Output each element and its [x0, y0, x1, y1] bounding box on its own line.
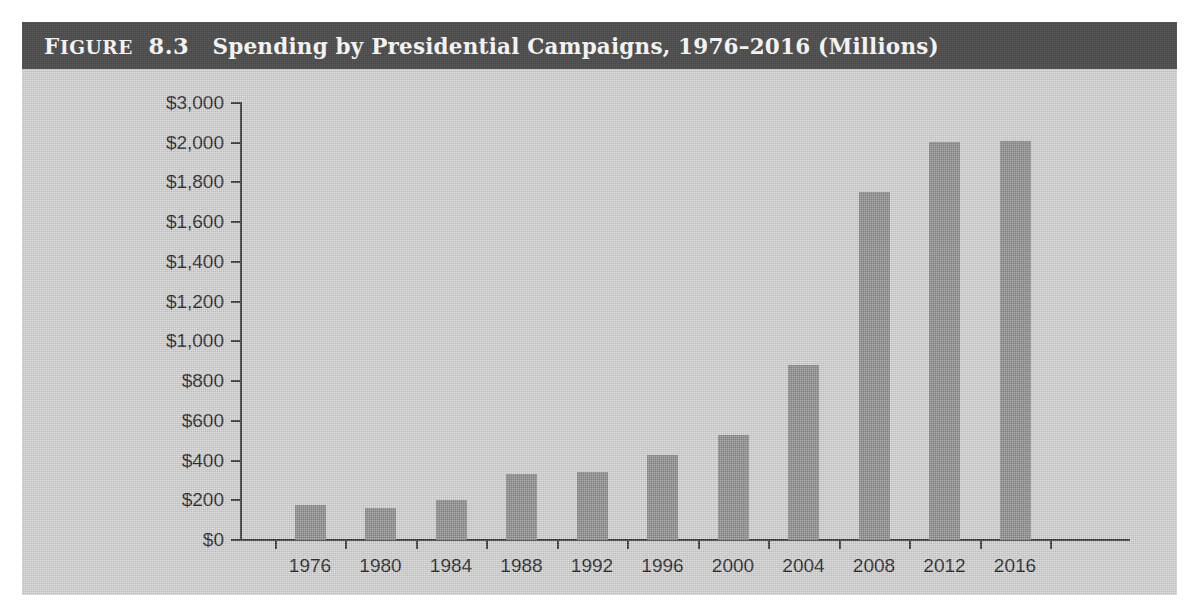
x-axis-tick-label: 1988	[482, 556, 562, 576]
x-axis-tick-label: 1984	[411, 556, 491, 576]
x-axis-tick-label: 1992	[552, 556, 632, 576]
bar-1992	[577, 472, 608, 540]
y-axis-tick	[231, 420, 241, 422]
y-axis-line	[240, 102, 242, 541]
x-axis-tick-label: 1976	[270, 556, 350, 576]
x-axis-tick	[486, 540, 488, 549]
x-axis-tick-label: 2000	[693, 556, 773, 576]
y-axis-tick-label: $1,200	[124, 292, 224, 311]
chart-plot-area: $3,000$2,000$1,800$1,600$1,400$1,200$1,0…	[22, 69, 1177, 595]
figure-container: FIGURE 8.3 Spending by Presidential Camp…	[0, 0, 1187, 608]
figure-title: FIGURE 8.3 Spending by Presidential Camp…	[44, 33, 939, 59]
bar-2008	[859, 192, 890, 540]
bar-2004	[788, 365, 819, 540]
y-axis-tick-label: $400	[124, 451, 224, 470]
figure-title-band: FIGURE 8.3 Spending by Presidential Camp…	[22, 22, 1177, 69]
x-axis-tick	[768, 540, 770, 549]
y-axis-tick-label: $1,000	[124, 331, 224, 350]
x-axis-tick	[1050, 540, 1052, 549]
y-axis-tick-label: $1,800	[124, 172, 224, 191]
y-axis-tick	[231, 301, 241, 303]
bar-1980	[365, 508, 396, 540]
bar-2012	[929, 142, 960, 540]
y-axis-tick-label: $200	[124, 490, 224, 509]
x-axis-tick	[345, 540, 347, 549]
y-axis-tick	[231, 340, 241, 342]
y-axis-tick-label: $1,400	[124, 252, 224, 271]
x-axis-tick	[839, 540, 841, 549]
y-axis-tick-label: $2,000	[124, 133, 224, 152]
figure-title-text: Spending by Presidential Campaigns, 1976…	[213, 34, 939, 59]
x-axis-tick	[416, 540, 418, 549]
y-axis-tick-label: $3,000	[124, 93, 224, 112]
bar-1976	[295, 505, 326, 540]
bar-1984	[436, 500, 467, 540]
y-axis-tick	[231, 460, 241, 462]
figure-label: FIGURE	[44, 37, 133, 58]
bar-1996	[647, 455, 678, 540]
y-axis-tick	[231, 102, 241, 104]
bar-2016	[1000, 141, 1031, 540]
y-axis-tick	[231, 380, 241, 382]
y-axis-tick	[231, 181, 241, 183]
y-axis-tick-label: $1,600	[124, 212, 224, 231]
y-axis-tick	[231, 261, 241, 263]
x-axis-tick	[275, 540, 277, 549]
y-axis-tick-label: $0	[124, 530, 224, 549]
x-axis-tick-label: 2008	[834, 556, 914, 576]
x-axis-tick-label: 2016	[975, 556, 1055, 576]
x-axis-tick	[698, 540, 700, 549]
y-axis-tick	[231, 221, 241, 223]
figure-number: 8.3	[149, 33, 190, 59]
x-axis-tick-label: 1980	[341, 556, 421, 576]
x-axis-tick-label: 2012	[905, 556, 985, 576]
x-axis-tick	[557, 540, 559, 549]
x-axis-tick	[627, 540, 629, 549]
y-axis-tick	[231, 499, 241, 501]
x-axis-tick	[980, 540, 982, 549]
x-axis-tick-label: 2004	[764, 556, 844, 576]
y-axis-tick-label: $800	[124, 371, 224, 390]
bar-1988	[506, 474, 537, 540]
bar-2000	[718, 435, 749, 540]
y-axis-tick-label: $600	[124, 411, 224, 430]
y-axis-tick	[231, 539, 241, 541]
x-axis-tick-label: 1996	[623, 556, 703, 576]
y-axis-tick	[231, 142, 241, 144]
x-axis-tick	[909, 540, 911, 549]
y-axis-labels: $3,000$2,000$1,800$1,600$1,400$1,200$1,0…	[118, 69, 224, 595]
